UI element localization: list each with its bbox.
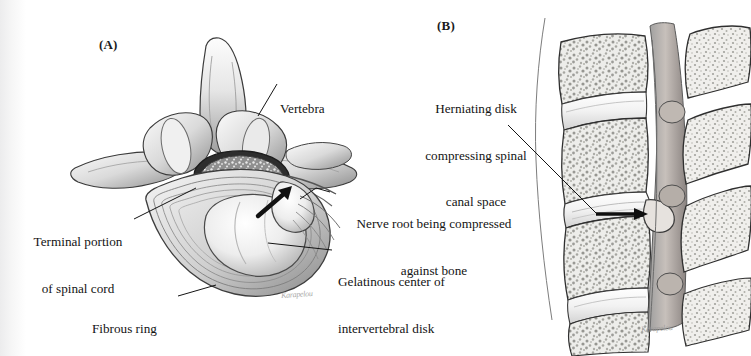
artist-signature-panel-a: Karapelou — [281, 289, 313, 300]
label-herniating-disk: Herniating disk compressing spinal canal… — [396, 70, 556, 241]
label-gelatinous-center-line-1: Gelatinous center of — [338, 274, 445, 290]
herniation-direction-arrow-a — [258, 186, 292, 216]
leader-nerve-root — [316, 188, 330, 192]
label-vertebra: Vertebra — [280, 70, 325, 148]
label-terminal-portion-line-1: Terminal portion — [18, 234, 138, 250]
label-gelatinous-center-line-2: intervertebral disk — [338, 321, 445, 337]
leader-nerve-root-2 — [300, 188, 316, 199]
label-herniating-disk-line-2: compressing spinal — [396, 148, 556, 164]
leader-terminal-portion — [134, 188, 196, 219]
herniation-pointer-arrow-b — [596, 208, 648, 220]
panel-a-letter: (A) — [99, 37, 118, 53]
figure-root: (A) (B) Vertebra Terminal portion of spi… — [0, 0, 751, 356]
label-fibrous-ring: Fibrous ring — [92, 290, 157, 356]
panel-b-letter: (B) — [437, 18, 455, 34]
panel-b-illustration — [535, 18, 751, 356]
label-herniating-disk-line-1: Herniating disk — [396, 101, 556, 117]
artist-signature-panel-b: Karapelou — [641, 323, 673, 334]
label-gelatinous-center: Gelatinous center of intervertebral disk — [338, 243, 445, 356]
label-vertebra-line-1: Vertebra — [280, 101, 325, 117]
leader-vertebra — [258, 84, 277, 116]
label-herniating-disk-line-3: canal space — [396, 194, 556, 210]
leader-fibrous-ring — [178, 285, 216, 296]
label-fibrous-ring-line-1: Fibrous ring — [92, 321, 157, 337]
leader-gelatinous-center — [268, 243, 332, 250]
